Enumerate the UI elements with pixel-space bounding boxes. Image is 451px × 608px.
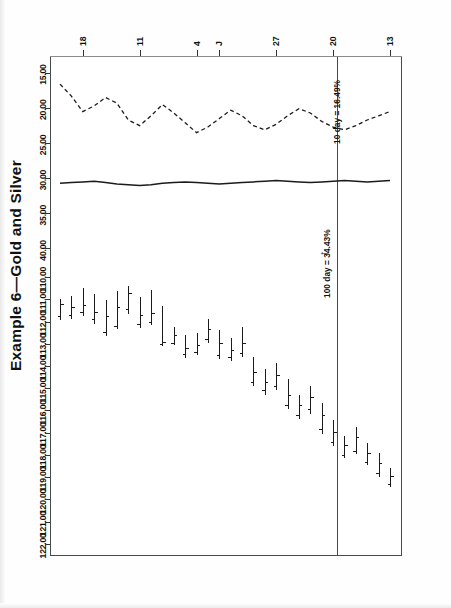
price-tick-mark bbox=[45, 366, 50, 367]
annotations-layer: 100 day = 34.43%↑10 day = 16.49%➜ bbox=[50, 56, 402, 556]
time-tick-label: 18 bbox=[77, 36, 87, 46]
time-tick-label: 11 bbox=[134, 37, 144, 46]
price-tick-label: 115.00 bbox=[38, 378, 48, 403]
price-tick-label: 110.00 bbox=[38, 267, 48, 292]
oscillator-tick-label: 15.00 bbox=[38, 64, 48, 85]
price-tick-mark bbox=[45, 388, 50, 389]
price-tick-label: 122.00 bbox=[38, 533, 48, 558]
price-tick-label: 112.00 bbox=[38, 311, 48, 336]
chart-region: 122.00121.00120.00119.00118.00117.00116.… bbox=[0, 0, 451, 608]
oscillator-tick-mark bbox=[45, 143, 50, 144]
time-tick-label: 27 bbox=[271, 36, 281, 46]
price-tick-label: 114.00 bbox=[38, 356, 48, 381]
price-tick-label: 120.00 bbox=[38, 489, 48, 514]
oscillator-tick-mark bbox=[45, 178, 50, 179]
chart-stage: 122.00121.00120.00119.00118.00117.00116.… bbox=[30, 34, 422, 574]
annotation-10-day-label: 10 day = 16.49% bbox=[332, 80, 342, 144]
oscillator-tick-mark bbox=[45, 213, 50, 214]
price-tick-mark bbox=[45, 277, 50, 278]
oscillator-tick-mark bbox=[45, 73, 50, 74]
scanned-page: Example 6—Gold and Silver 122.00121.0012… bbox=[0, 0, 451, 608]
price-tick-mark bbox=[45, 411, 50, 412]
time-tick-label: 13 bbox=[385, 36, 395, 46]
oscillator-tick-mark bbox=[45, 248, 50, 249]
price-tick-mark bbox=[45, 522, 50, 523]
price-tick-mark bbox=[45, 299, 50, 300]
oscillator-tick-label: 25.00 bbox=[38, 135, 48, 156]
annotation-100-day-arrow: ↑ bbox=[318, 251, 329, 257]
annotation-100-day-label: 100 day = 34.43% bbox=[322, 229, 332, 298]
price-tick-label: 121.00 bbox=[38, 511, 48, 536]
price-tick-mark bbox=[45, 544, 50, 545]
price-tick-label: 118.00 bbox=[38, 445, 48, 470]
price-tick-mark bbox=[45, 344, 50, 345]
time-tick-label: 20 bbox=[328, 36, 338, 46]
price-tick-mark bbox=[45, 477, 50, 478]
time-tick-label: 4 bbox=[191, 41, 201, 46]
time-tick-label: J bbox=[214, 41, 224, 46]
price-tick-label: 117.00 bbox=[38, 422, 48, 447]
price-tick-label: 116.00 bbox=[38, 400, 48, 425]
price-tick-mark bbox=[45, 455, 50, 456]
price-tick-mark bbox=[45, 499, 50, 500]
price-tick-label: 111.00 bbox=[38, 289, 48, 313]
price-tick-label: 119.00 bbox=[38, 467, 48, 492]
oscillator-tick-label: 40.00 bbox=[38, 240, 48, 261]
oscillator-tick-label: 35.00 bbox=[38, 205, 48, 226]
price-tick-mark bbox=[45, 322, 50, 323]
oscillator-tick-label: 20.00 bbox=[38, 99, 48, 120]
oscillator-tick-label: 30.00 bbox=[38, 170, 48, 191]
price-tick-mark bbox=[45, 433, 50, 434]
price-tick-label: 113.00 bbox=[38, 334, 48, 359]
oscillator-tick-mark bbox=[45, 108, 50, 109]
